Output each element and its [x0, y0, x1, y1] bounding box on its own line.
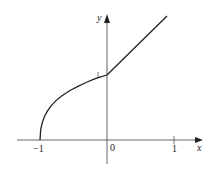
x-axis-label: x [196, 142, 202, 153]
line-segment [107, 16, 167, 75]
y-axis-arrow-icon [104, 14, 110, 23]
y-axis-label: y [96, 12, 102, 23]
x-tick-label-0: 0 [110, 142, 115, 153]
x-tick-label-1: 1 [172, 143, 177, 154]
curve-sqrt [40, 75, 107, 140]
x-tick-label-neg1: −1 [33, 143, 44, 154]
function-graph: y x −1 0 1 [0, 0, 215, 172]
